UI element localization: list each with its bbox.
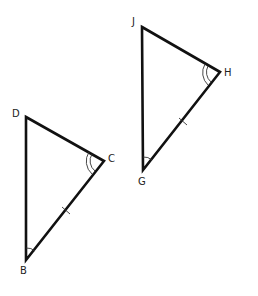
- congruent-triangles-diagram: D C B J H G: [0, 0, 258, 296]
- vertex-label-c: C: [108, 153, 115, 164]
- vertex-label-h: H: [224, 67, 232, 78]
- triangle-dcb: [26, 117, 104, 260]
- triangle-jhg: [142, 27, 220, 170]
- vertex-label-d: D: [12, 108, 20, 119]
- vertex-label-j: J: [131, 16, 135, 27]
- vertex-label-g: G: [138, 176, 146, 187]
- vertex-label-b: B: [20, 265, 27, 276]
